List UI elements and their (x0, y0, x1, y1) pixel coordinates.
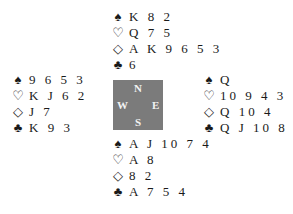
compass-north-label: N (134, 82, 142, 94)
south-clubs: ♣A 7 5 4 (112, 184, 212, 200)
spade-icon: ♠ (112, 9, 124, 25)
heart-icon: ♡ (203, 88, 215, 104)
west-hearts: ♡K J 6 2 (12, 88, 87, 104)
north-clubs: ♣6 (112, 57, 222, 73)
club-icon: ♣ (12, 120, 24, 136)
south-hearts: ♡A 8 (112, 152, 212, 168)
west-clubs: ♣K 9 3 (12, 120, 87, 136)
west-diamonds: ◇J 7 (12, 104, 87, 120)
spade-icon: ♠ (12, 72, 24, 88)
east-spades: ♠Q (203, 72, 293, 88)
west-spades: ♠9 6 5 3 (12, 72, 87, 88)
heart-icon: ♡ (12, 88, 24, 104)
east-clubs: ♣Q J 10 8 2 (203, 120, 293, 136)
compass-south-label: S (135, 116, 141, 128)
club-icon: ♣ (112, 184, 124, 200)
heart-icon: ♡ (112, 152, 124, 168)
south-diamonds: ◇8 2 (112, 168, 212, 184)
club-icon: ♣ (203, 120, 215, 136)
diamond-icon: ◇ (12, 104, 24, 120)
diamond-icon: ◇ (112, 41, 124, 57)
club-icon: ♣ (112, 57, 124, 73)
compass-east-label: E (152, 99, 159, 111)
west-hand: ♠9 6 5 3 ♡K J 6 2 ◇J 7 ♣K 9 3 (12, 72, 87, 136)
diamond-icon: ◇ (112, 168, 124, 184)
north-spades: ♠K 8 2 (112, 9, 222, 25)
compass-west-label: W (117, 99, 128, 111)
spade-icon: ♠ (203, 72, 215, 88)
compass-box: N W E S (113, 80, 163, 130)
spade-icon: ♠ (112, 136, 124, 152)
north-diamonds: ◇A K 9 6 5 3 (112, 41, 222, 57)
east-diamonds: ◇Q 10 4 (203, 104, 293, 120)
north-hearts: ♡Q 7 5 (112, 25, 222, 41)
diamond-icon: ◇ (203, 104, 215, 120)
north-hand: ♠K 8 2 ♡Q 7 5 ◇A K 9 6 5 3 ♣6 (112, 9, 222, 73)
south-hand: ♠A J 10 7 4 ♡A 8 ◇8 2 ♣A 7 5 4 (112, 136, 212, 200)
south-spades: ♠A J 10 7 4 (112, 136, 212, 152)
east-hand: ♠Q ♡10 9 4 3 ◇Q 10 4 ♣Q J 10 8 2 (203, 72, 293, 136)
heart-icon: ♡ (112, 25, 124, 41)
east-hearts: ♡10 9 4 3 (203, 88, 293, 104)
